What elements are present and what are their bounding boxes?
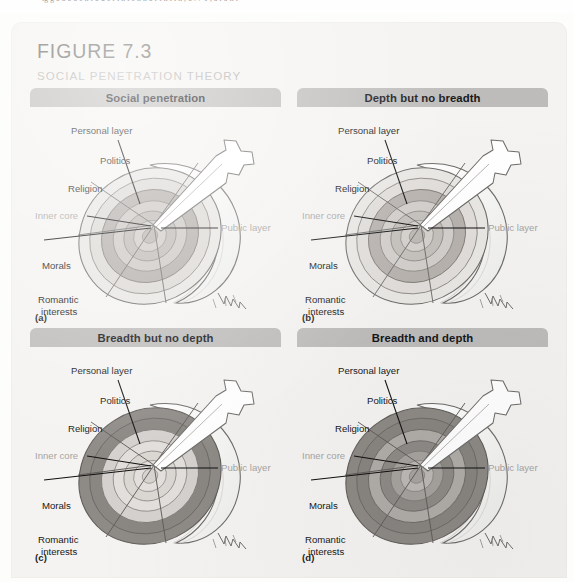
panel-c: Breadth but no depth: [30, 328, 281, 565]
panel-d-title: Breadth and depth: [297, 328, 548, 347]
label-romantic-interests-l1: Romantic: [305, 294, 346, 305]
label-politics: Politics: [367, 395, 398, 406]
label-politics: Politics: [367, 155, 398, 166]
panel-b: Depth but no breadth: [297, 88, 548, 325]
onion-diagram-c: Personal layer Politics Religion Inner c…: [30, 347, 281, 565]
bleed-text: ig g o a o o e n i o u e r i n i e n n o…: [42, 0, 238, 3]
label-inner-core: Inner core: [302, 450, 345, 461]
label-morals: Morals: [42, 500, 71, 511]
panel-a: Social penetration: [30, 88, 281, 325]
label-personal-layer: Personal layer: [71, 365, 133, 376]
label-personal-layer: Personal layer: [338, 125, 400, 136]
panel-c-letter: (c): [35, 552, 47, 563]
label-morals: Morals: [309, 260, 338, 271]
label-personal-layer: Personal layer: [338, 365, 400, 376]
figure-header: FIGURE 7.3 SOCIAL PENETRATION THEORY: [37, 42, 241, 81]
panel-d: Breadth and depth: [297, 328, 548, 565]
onion-diagram-b: Personal layer Politics Religion Inner c…: [297, 107, 548, 325]
panel-b-letter: (b): [302, 312, 315, 323]
label-religion: Religion: [335, 423, 370, 434]
figure-subtitle: SOCIAL PENETRATION THEORY: [37, 70, 241, 82]
label-morals: Morals: [42, 260, 71, 271]
panel-d-letter: (d): [302, 552, 315, 563]
label-inner-core: Inner core: [35, 450, 78, 461]
panel-a-title: Social penetration: [30, 88, 281, 107]
label-religion: Religion: [68, 183, 103, 194]
panel-grid: Social penetration: [30, 88, 548, 565]
label-romantic-interests-l1: Romantic: [38, 534, 79, 545]
label-public-layer: Public layer: [488, 222, 538, 233]
onion-diagram-a: Personal layer Politics Religion Inner c…: [30, 107, 281, 325]
panel-a-letter: (a): [35, 312, 47, 323]
scanned-page-bleed: ig g o a o o e n i o u e r i n i e n n o…: [0, 0, 574, 14]
label-politics: Politics: [100, 395, 131, 406]
label-romantic-interests-l1: Romantic: [305, 534, 346, 545]
label-romantic-interests-l1: Romantic: [38, 294, 79, 305]
label-morals: Morals: [309, 500, 338, 511]
label-public-layer: Public layer: [221, 462, 271, 473]
panel-a-body: Personal layer Politics Religion Inner c…: [30, 107, 281, 325]
panel-b-title: Depth but no breadth: [297, 88, 548, 107]
label-religion: Religion: [68, 423, 103, 434]
label-inner-core: Inner core: [302, 210, 345, 221]
label-religion: Religion: [335, 183, 370, 194]
panel-b-body: Personal layer Politics Religion Inner c…: [297, 107, 548, 325]
panel-c-body: Personal layer Politics Religion Inner c…: [30, 347, 281, 565]
onion-diagram-d: Personal layer Politics Religion Inner c…: [297, 347, 548, 565]
label-politics: Politics: [100, 155, 131, 166]
label-public-layer: Public layer: [488, 462, 538, 473]
figure-card: FIGURE 7.3 SOCIAL PENETRATION THEORY Soc…: [11, 22, 567, 578]
label-inner-core: Inner core: [35, 210, 78, 221]
panel-d-body: Personal layer Politics Religion Inner c…: [297, 347, 548, 565]
figure-number: FIGURE 7.3: [37, 42, 241, 62]
panel-c-title: Breadth but no depth: [30, 328, 281, 347]
label-personal-layer: Personal layer: [71, 125, 133, 136]
label-public-layer: Public layer: [221, 222, 271, 233]
